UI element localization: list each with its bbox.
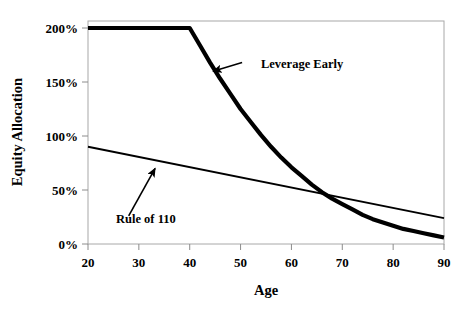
y-tick-label: 150% [46, 75, 79, 90]
x-tick-label: 50 [234, 255, 247, 270]
annotation-label-rule-of-110: Rule of 110 [116, 212, 176, 226]
equity-allocation-line-chart: 0%50%100%150%200% 2030405060708090 Lever… [0, 0, 476, 310]
y-axis-ticks [82, 28, 88, 244]
x-axis-tick-labels: 2030405060708090 [82, 255, 451, 270]
x-tick-label: 80 [387, 255, 400, 270]
x-axis-title: Age [254, 282, 279, 298]
x-tick-label: 40 [183, 255, 196, 270]
y-tick-label: 50% [52, 183, 78, 198]
x-tick-label: 20 [82, 255, 95, 270]
annotation-label-leverage-early: Leverage Early [261, 57, 344, 71]
x-axis-ticks [88, 244, 444, 250]
y-tick-label: 100% [46, 129, 79, 144]
y-tick-label: 0% [59, 237, 79, 252]
y-tick-label: 200% [46, 21, 79, 36]
plot-area-frame [88, 21, 444, 244]
x-tick-label: 90 [438, 255, 451, 270]
x-tick-label: 30 [132, 255, 145, 270]
y-axis-tick-labels: 0%50%100%150%200% [46, 21, 79, 252]
chart-container: 0%50%100%150%200% 2030405060708090 Lever… [0, 0, 476, 310]
x-tick-label: 60 [285, 255, 298, 270]
x-tick-label: 70 [336, 255, 349, 270]
y-axis-title: Equity Allocation [9, 78, 25, 186]
